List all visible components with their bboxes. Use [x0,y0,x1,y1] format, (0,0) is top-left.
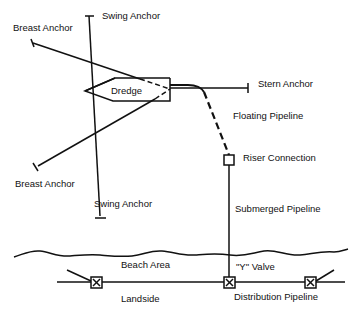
breast-anchor-top-line [31,39,140,79]
label-dredge: Dredge [111,85,142,96]
label-breast-anchor-top: Breast Anchor [13,22,73,33]
dredge-layout-diagram: Breast Anchor Swing Anchor Dredge Stern … [0,0,358,313]
floating-pipeline [170,85,229,155]
label-beach-area: Beach Area [121,259,171,270]
label-y-valve: "Y" Valve [236,261,275,272]
y-valve [224,277,235,288]
shoreline-wave [14,249,348,257]
label-landside: Landside [121,293,160,304]
label-stern-anchor: Stern Anchor [258,78,313,89]
label-breast-anchor-bottom: Breast Anchor [15,178,75,189]
breast-anchor-bottom-marker [33,163,38,171]
label-distribution-pipeline: Distribution Pipeline [234,291,318,302]
riser-connection-box [224,155,234,165]
label-riser-connection: Riser Connection [243,152,316,163]
swing-anchor-line [85,16,106,218]
landside-valve [67,270,102,288]
dredge-inner-dash-top [140,79,170,89]
label-submerged-pipeline: Submerged Pipeline [235,203,321,214]
distribution-valve [305,270,334,288]
label-swing-anchor-bottom: Swing Anchor [94,198,152,209]
label-floating-pipeline: Floating Pipeline [233,110,303,121]
dredge-inner-dash-bottom [155,89,170,99]
label-swing-anchor-top: Swing Anchor [102,10,160,21]
